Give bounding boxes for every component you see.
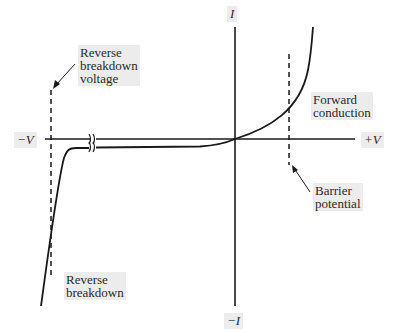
forward-conduction-curve bbox=[235, 27, 313, 139]
forward-conduction-label: Forward conduction bbox=[311, 92, 373, 120]
iv-curve-diagram bbox=[0, 0, 396, 332]
axis-break-marks bbox=[89, 134, 95, 152]
reverse-breakdown-voltage-label: Reverse breakdown voltage bbox=[78, 45, 140, 86]
barrier-potential-arrow bbox=[292, 165, 310, 192]
breakdown-voltage-arrow bbox=[53, 64, 75, 89]
y-negative-axis-label: −I bbox=[224, 313, 243, 329]
barrier-potential-label: Barrier potential bbox=[313, 183, 363, 211]
x-positive-axis-label: +V bbox=[361, 132, 384, 148]
reverse-breakdown-label: Reverse breakdown bbox=[64, 272, 126, 300]
x-negative-axis-label: −V bbox=[14, 132, 37, 148]
y-positive-axis-label: I bbox=[227, 6, 237, 22]
reverse-leakage-curve bbox=[96, 139, 235, 148]
